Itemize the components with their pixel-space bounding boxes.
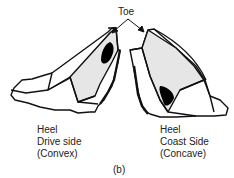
left-side-label: Drive side xyxy=(37,136,81,148)
left-tooth-caption: Heel Drive side (Convex) xyxy=(37,124,81,160)
right-side-label: Coast Side xyxy=(160,136,209,148)
toe-label: Toe xyxy=(118,6,134,18)
left-shape-label: (Convex) xyxy=(37,148,81,160)
right-arrowhead-icon xyxy=(138,26,144,32)
right-heel-label: Heel xyxy=(160,124,209,136)
toe-arrows xyxy=(112,19,144,33)
left-heel-label: Heel xyxy=(37,124,81,136)
right-tooth-caption: Heel Coast Side (Concave) xyxy=(160,124,209,160)
right-shape-label: (Concave) xyxy=(160,148,209,160)
right-tooth-coast-side xyxy=(130,29,228,117)
figure-caption: (b) xyxy=(113,164,125,176)
left-tooth-drive-side xyxy=(11,28,120,113)
